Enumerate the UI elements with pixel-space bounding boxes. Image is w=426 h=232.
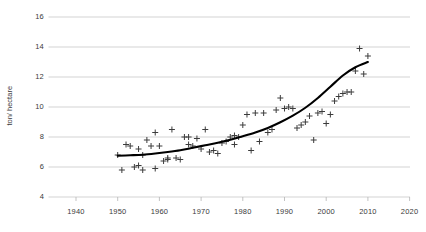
x-axis-tick-label: 1940 xyxy=(67,208,85,216)
data-point-marker xyxy=(319,109,325,115)
data-point-marker xyxy=(315,110,321,116)
data-point-marker xyxy=(365,53,371,59)
data-point-marker xyxy=(177,157,183,163)
data-point-marker xyxy=(173,155,179,161)
data-point-marker xyxy=(244,112,250,118)
data-point-marker xyxy=(261,110,267,116)
data-point-marker xyxy=(136,163,142,169)
data-point-marker xyxy=(248,148,254,154)
data-point-marker xyxy=(282,106,288,112)
data-point-marker xyxy=(148,143,154,149)
x-axis-tick-label: 2020 xyxy=(401,208,419,216)
data-point-marker xyxy=(186,142,192,148)
data-point-marker xyxy=(156,143,162,149)
x-axis-tick-label: 1950 xyxy=(109,208,127,216)
data-point-marker xyxy=(311,137,317,143)
chart-container: ton/ hectare 46810121416 194019501960197… xyxy=(0,0,426,232)
data-point-marker xyxy=(144,137,150,143)
data-point-marker xyxy=(361,71,367,77)
data-point-marker xyxy=(136,146,142,152)
y-axis-tick-label: 10 xyxy=(26,103,44,111)
y-axis-tick-label: 6 xyxy=(26,163,44,171)
data-point-marker xyxy=(286,104,292,110)
data-point-marker xyxy=(152,166,158,172)
data-point-marker xyxy=(194,136,200,142)
plot-area xyxy=(0,0,426,232)
trend-line xyxy=(118,62,368,156)
y-axis-tick-label: 4 xyxy=(26,193,44,201)
data-point-marker xyxy=(273,107,279,113)
data-point-marker xyxy=(265,130,271,136)
data-point-marker xyxy=(332,98,338,104)
data-point-marker xyxy=(240,122,246,128)
data-point-marker xyxy=(161,158,167,164)
data-point-marker xyxy=(290,106,296,112)
data-point-marker xyxy=(277,95,283,101)
data-point-marker xyxy=(340,91,346,97)
data-point-marker xyxy=(202,127,208,133)
x-axis-tick-label: 1960 xyxy=(151,208,169,216)
y-axis-tick-label: 12 xyxy=(26,73,44,81)
data-point-marker xyxy=(152,130,158,136)
data-point-marker xyxy=(169,127,175,133)
data-point-marker xyxy=(327,112,333,118)
y-axis-tick-label: 14 xyxy=(26,43,44,51)
data-point-marker xyxy=(336,94,342,100)
x-axis-tick-label: 1990 xyxy=(276,208,294,216)
data-point-marker xyxy=(307,113,313,119)
data-point-marker xyxy=(294,125,300,131)
gridlines-group xyxy=(49,17,411,197)
data-point-marker xyxy=(357,46,363,52)
x-axis-tick-label: 1970 xyxy=(192,208,210,216)
data-point-marker xyxy=(123,142,129,148)
data-point-marker xyxy=(119,167,125,173)
data-point-marker xyxy=(140,167,146,173)
x-axis-tick-label: 2010 xyxy=(359,208,377,216)
data-point-marker xyxy=(215,151,221,157)
data-point-marker xyxy=(323,121,329,127)
data-point-marker xyxy=(256,139,262,145)
y-axis-tick-label: 16 xyxy=(26,13,44,21)
x-axis-tick-label: 1980 xyxy=(234,208,252,216)
y-axis-tick-label: 8 xyxy=(26,133,44,141)
data-point-marker xyxy=(206,149,212,155)
x-axis-tick-label: 2000 xyxy=(317,208,335,216)
x-axis-ticks-group xyxy=(76,197,410,201)
data-point-marker xyxy=(165,155,171,161)
data-point-marker xyxy=(348,89,354,95)
data-point-marker xyxy=(302,119,308,125)
data-point-marker xyxy=(186,134,192,140)
data-point-marker xyxy=(211,148,217,154)
data-point-marker xyxy=(127,143,133,149)
data-point-marker xyxy=(131,164,137,170)
data-point-marker xyxy=(298,122,304,128)
y-axis-title: ton/ hectare xyxy=(6,78,14,134)
data-point-marker xyxy=(252,110,258,116)
data-point-marker xyxy=(231,142,237,148)
